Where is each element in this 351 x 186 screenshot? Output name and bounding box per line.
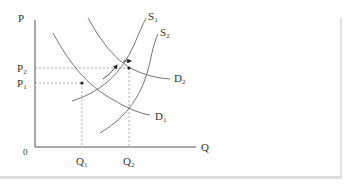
curve-label-d2: D2 (174, 72, 186, 86)
diagram-frame: P Q 0 P2 P1 Q1 Q2 S1 S2 D1 D2 (0, 0, 351, 186)
curve-d1 (53, 33, 150, 115)
curve-label-s1: S1 (148, 10, 158, 24)
price-label-p2: P2 (17, 62, 27, 76)
supply-demand-diagram: P Q 0 P2 P1 Q1 Q2 S1 S2 D1 D2 (0, 0, 351, 186)
quantity-label-q2: Q2 (123, 155, 135, 169)
equilibrium-point-2 (127, 66, 130, 69)
curve-s1 (72, 18, 146, 101)
curve-label-s2: S2 (160, 26, 170, 40)
origin-label: 0 (23, 147, 28, 157)
curve-label-d1: D1 (155, 110, 167, 124)
x-axis-label: Q (201, 141, 209, 153)
path-arrow (103, 65, 117, 79)
y-axis-label: P (18, 12, 24, 24)
quantity-label-q1: Q1 (76, 155, 88, 169)
price-label-p1: P1 (17, 77, 27, 91)
equilibrium-point-1 (80, 81, 83, 84)
